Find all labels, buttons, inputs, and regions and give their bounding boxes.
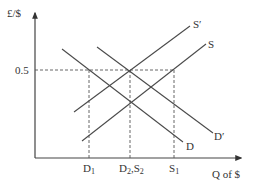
price-tick-label: 0.5 xyxy=(15,64,29,76)
curve-label-s-prime: S′ xyxy=(193,18,202,30)
exchange-rate-diagram: £/$ Q of $ 0.5 D D′ S S′ D1 D2,S2 S1 xyxy=(0,0,257,184)
demand-curve-d xyxy=(62,49,183,142)
quantity-label-s1: S1 xyxy=(169,162,179,176)
quantity-label-d1: D1 xyxy=(83,162,95,176)
curve-label-d: D xyxy=(186,140,194,152)
curve-label-s: S xyxy=(208,38,214,50)
curve-label-d-prime: D′ xyxy=(214,130,224,142)
supply-curve-s-prime xyxy=(74,26,190,112)
y-axis-label: £/$ xyxy=(7,7,22,19)
x-axis-label: Q of $ xyxy=(212,168,241,180)
quantity-label-d2-s2: D2,S2 xyxy=(119,162,144,176)
